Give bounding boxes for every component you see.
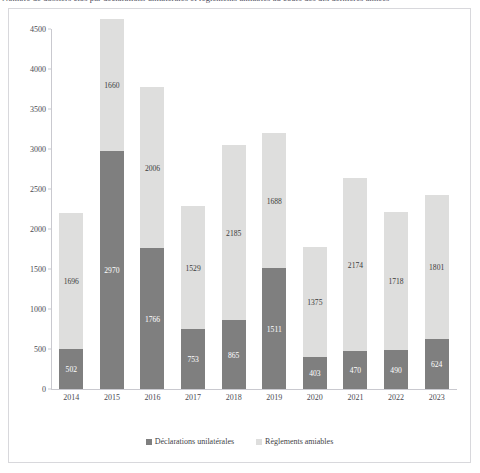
bar-segment-declarations-unilaterales[interactable]: 2970 (100, 151, 124, 389)
bar-segment-declarations-unilaterales[interactable]: 403 (303, 357, 327, 389)
chart-frame: 450040003500300025002000150010005000 169… (8, 8, 471, 463)
bar-value-label: 1766 (145, 316, 160, 324)
bar-value-label: 490 (390, 367, 401, 375)
bar-value-label: 1375 (307, 299, 322, 307)
x-axis-tick-label: 2018 (213, 393, 254, 402)
bar-column[interactable]: 1801624 (416, 29, 457, 389)
bar-value-label: 1801 (429, 264, 444, 272)
bar-column[interactable]: 1375403 (295, 29, 336, 389)
x-axis-tick-label: 2016 (132, 393, 173, 402)
bar-segment-reglements-amiables[interactable]: 2174 (343, 178, 367, 352)
bar-value-label: 502 (66, 366, 77, 374)
bar-segment-declarations-unilaterales[interactable]: 490 (384, 350, 408, 389)
bar-stack: 20061766 (140, 87, 164, 389)
bar-series-group: 1696502166029702006176615297532185865168… (51, 29, 457, 389)
bar-segment-reglements-amiables[interactable]: 1375 (303, 247, 327, 357)
bar-value-label: 624 (431, 361, 442, 369)
bar-stack: 1696502 (59, 213, 83, 389)
bar-segment-reglements-amiables[interactable]: 1718 (384, 212, 408, 349)
bar-value-label: 2970 (104, 267, 119, 275)
bar-value-label: 1688 (267, 198, 282, 206)
bar-segment-declarations-unilaterales[interactable]: 470 (343, 351, 367, 389)
bar-column[interactable]: 1718490 (376, 29, 417, 389)
legend-swatch-icon (146, 439, 152, 445)
bar-value-label: 1529 (185, 265, 200, 273)
x-axis-tick-label: 2015 (92, 393, 133, 402)
bar-segment-reglements-amiables[interactable]: 1529 (181, 206, 205, 328)
bar-segment-reglements-amiables[interactable]: 1696 (59, 213, 83, 349)
bar-value-label: 865 (228, 352, 239, 360)
axis-area: 450040003500300025002000150010005000 169… (51, 29, 457, 389)
bar-stack: 1718490 (384, 212, 408, 389)
x-axis-tick-label: 2017 (173, 393, 214, 402)
legend-label: Déclarations unilatérales (155, 437, 234, 446)
x-axis-tick-label: 2023 (416, 393, 457, 402)
bar-column[interactable]: 1696502 (51, 29, 92, 389)
figure-caption-text: Nombre de dossiers clos par déclarations… (0, 0, 480, 5)
bar-segment-reglements-amiables[interactable]: 1660 (100, 19, 124, 152)
bar-stack: 1801624 (425, 195, 449, 389)
legend-swatch-icon (256, 439, 262, 445)
bar-segment-declarations-unilaterales[interactable]: 502 (59, 349, 83, 389)
bar-stack: 1375403 (303, 247, 327, 389)
bar-stack: 2174470 (343, 178, 367, 390)
x-axis-tick-label: 2022 (376, 393, 417, 402)
bar-column[interactable]: 1529753 (173, 29, 214, 389)
bar-value-label: 470 (350, 367, 361, 375)
bar-value-label: 2185 (226, 230, 241, 238)
chart-legend: Déclarations unilatéralesRèglements amia… (9, 437, 470, 446)
bar-value-label: 1660 (104, 82, 119, 90)
bar-value-label: 2174 (348, 262, 363, 270)
bar-stack: 16602970 (100, 19, 124, 389)
bar-segment-reglements-amiables[interactable]: 2006 (140, 87, 164, 247)
bar-column[interactable]: 20061766 (132, 29, 173, 389)
bar-segment-declarations-unilaterales[interactable]: 753 (181, 329, 205, 389)
x-axis-tick-label: 2019 (254, 393, 295, 402)
bar-segment-declarations-unilaterales[interactable]: 1511 (262, 268, 286, 389)
bar-stack: 2185865 (222, 145, 246, 389)
legend-item[interactable]: Déclarations unilatérales (146, 437, 234, 446)
bar-stack: 16881511 (262, 133, 286, 389)
legend-item[interactable]: Règlements amiables (256, 437, 333, 446)
bar-segment-declarations-unilaterales[interactable]: 624 (425, 339, 449, 389)
figure-caption-clipped: Nombre de dossiers clos par déclarations… (0, 0, 480, 5)
x-axis-tick-label: 2020 (295, 393, 336, 402)
bar-segment-reglements-amiables[interactable]: 1801 (425, 195, 449, 339)
bar-segment-reglements-amiables[interactable]: 1688 (262, 133, 286, 268)
bar-value-label: 1696 (64, 278, 79, 286)
bar-segment-reglements-amiables[interactable]: 2185 (222, 145, 246, 320)
bar-value-label: 403 (309, 370, 320, 378)
bar-value-label: 2006 (145, 165, 160, 173)
x-axis-tick-label: 2014 (51, 393, 92, 402)
legend-label: Règlements amiables (265, 437, 333, 446)
x-axis-line (51, 389, 457, 390)
bar-value-label: 1718 (388, 278, 403, 286)
x-axis-tick-label: 2021 (335, 393, 376, 402)
bar-column[interactable]: 2174470 (335, 29, 376, 389)
chart-plot-area: 450040003500300025002000150010005000 169… (9, 9, 470, 462)
bar-column[interactable]: 16602970 (92, 29, 133, 389)
bar-segment-declarations-unilaterales[interactable]: 1766 (140, 248, 164, 389)
bar-column[interactable]: 2185865 (213, 29, 254, 389)
bar-value-label: 1511 (267, 326, 282, 334)
bar-column[interactable]: 16881511 (254, 29, 295, 389)
bar-value-label: 753 (187, 356, 198, 364)
bar-segment-declarations-unilaterales[interactable]: 865 (222, 320, 246, 389)
x-axis-labels: 2014201520162017201820192020202120222023 (51, 393, 457, 402)
bar-stack: 1529753 (181, 206, 205, 389)
